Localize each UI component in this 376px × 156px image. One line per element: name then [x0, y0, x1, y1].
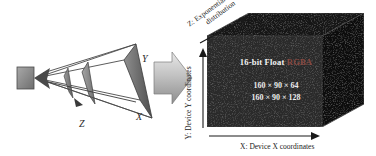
- frustum-z-arrowhead: [74, 98, 83, 107]
- frustum-near-plane: [64, 68, 73, 98]
- cube-format-prefix: 16-bit Float: [240, 57, 287, 67]
- cube-dimensions-block: 160 × 90 × 64 160 × 90 × 128: [229, 80, 323, 103]
- frustum-apex-arrowhead: [34, 68, 50, 89]
- device-volume-cube-group: [199, 13, 364, 140]
- frustum-z-axis-label: Z: [79, 119, 85, 129]
- cube-dimension-line-1: 160 × 90 × 64: [229, 80, 323, 92]
- x-axis-arrow: [209, 132, 320, 140]
- camera-eye-block: [17, 67, 34, 89]
- cube-format-label: 16-bit Float RGBA: [229, 58, 323, 67]
- cube-dimension-line-2: 160 × 90 × 128: [229, 92, 323, 104]
- x-axis-caption: X: Device X coordinates: [240, 143, 314, 151]
- frustum-y-axis-label: Y: [142, 54, 148, 64]
- figure-canvas: Y X Z 16-bit Float RGBA 160 × 90 × 64 16…: [0, 0, 376, 156]
- frustum-x-axis-label: X: [136, 112, 142, 122]
- cube-format-channels: RGBA: [287, 57, 312, 67]
- y-axis-caption: Y: Device Y coordinates: [185, 66, 193, 139]
- view-frustum-group: [17, 44, 152, 118]
- y-axis-arrow: [199, 48, 207, 128]
